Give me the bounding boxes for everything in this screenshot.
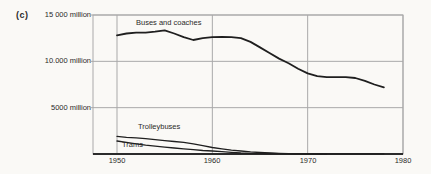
chart-figure: (c) 15 000 million 10.000 million 5000 m… — [0, 0, 431, 174]
plot-area — [0, 0, 431, 174]
line-buses-and-coaches — [117, 30, 384, 87]
